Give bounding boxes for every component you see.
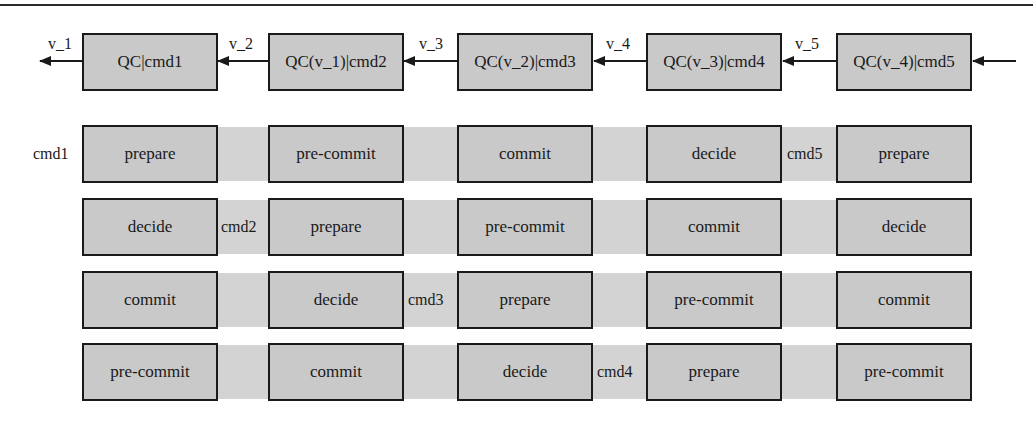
arrow-v2-icon bbox=[218, 60, 268, 62]
cmd-label-cmd5: cmd5 bbox=[787, 125, 823, 183]
phase-cell: pre-commit bbox=[646, 271, 782, 329]
qc-node-5: QC(v_4)|cmd5 bbox=[836, 33, 972, 91]
phase-cell: pre-commit bbox=[268, 125, 404, 183]
phase-cell: prepare bbox=[457, 271, 593, 329]
phase-cell: commit bbox=[457, 125, 593, 183]
edge-label-v5: v_5 bbox=[795, 35, 819, 53]
phase-cell: prepare bbox=[836, 125, 972, 183]
top-rule bbox=[0, 4, 1033, 6]
phase-cell: pre-commit bbox=[457, 198, 593, 256]
phase-cell: commit bbox=[836, 271, 972, 329]
qc-node-4: QC(v_3)|cmd4 bbox=[646, 33, 782, 91]
edge-label-v3: v_3 bbox=[419, 35, 443, 53]
qc-node-3: QC(v_2)|cmd3 bbox=[457, 33, 593, 91]
phase-cell: prepare bbox=[82, 125, 218, 183]
cmd-label-cmd2: cmd2 bbox=[221, 198, 257, 256]
phase-cell: decide bbox=[646, 125, 782, 183]
cmd-label-cmd3: cmd3 bbox=[408, 271, 444, 329]
arrow-v1-icon bbox=[40, 60, 82, 62]
cmd-label-cmd4: cmd4 bbox=[597, 343, 633, 401]
arrow-v4-icon bbox=[594, 60, 646, 62]
edge-label-v1: v_1 bbox=[48, 35, 72, 53]
phase-cell: decide bbox=[457, 343, 593, 401]
phase-cell: prepare bbox=[268, 198, 404, 256]
arrow-v5-icon bbox=[783, 60, 836, 62]
edge-label-v2: v_2 bbox=[229, 35, 253, 53]
cmd-label-cmd1: cmd1 bbox=[33, 125, 69, 183]
qc-node-2: QC(v_1)|cmd2 bbox=[268, 33, 404, 91]
qc-node-1: QC|cmd1 bbox=[82, 33, 218, 91]
edge-label-v4: v_4 bbox=[606, 35, 630, 53]
phase-cell: commit bbox=[646, 198, 782, 256]
phase-cell: pre-commit bbox=[836, 343, 972, 401]
phase-cell: commit bbox=[82, 271, 218, 329]
arrow-v3-icon bbox=[404, 60, 457, 62]
phase-cell: pre-commit bbox=[82, 343, 218, 401]
phase-cell: decide bbox=[82, 198, 218, 256]
phase-cell: prepare bbox=[646, 343, 782, 401]
phase-cell: decide bbox=[268, 271, 404, 329]
arrow-input-icon bbox=[973, 60, 1016, 62]
phase-cell: decide bbox=[836, 198, 972, 256]
phase-cell: commit bbox=[268, 343, 404, 401]
